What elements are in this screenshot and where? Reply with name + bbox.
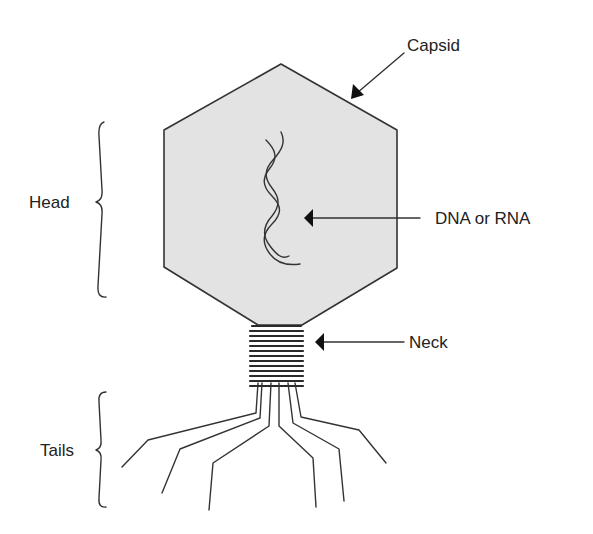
label-head: Head xyxy=(29,193,70,212)
tail-fiber-4 xyxy=(279,383,316,507)
label-neck: Neck xyxy=(409,333,448,352)
arrowhead-icon xyxy=(315,333,324,351)
head-brace xyxy=(96,122,106,297)
tails-brace xyxy=(96,392,106,507)
label-capsid: Capsid xyxy=(407,36,460,55)
tail-fiber-3 xyxy=(209,383,271,510)
phage-diagram: Capsid DNA or RNA Neck Head Tails xyxy=(0,0,593,534)
label-dna-or-rna: DNA or RNA xyxy=(435,209,531,228)
tail-fibers xyxy=(122,383,386,510)
label-tails: Tails xyxy=(40,441,74,460)
capsid-hexagon xyxy=(164,64,397,325)
neck-pointer xyxy=(315,333,404,351)
arrowhead-icon xyxy=(351,84,364,99)
neck-coil xyxy=(250,326,303,386)
tail-fiber-6 xyxy=(295,383,386,463)
tail-fiber-1 xyxy=(122,383,258,467)
capsid-pointer xyxy=(351,53,404,99)
